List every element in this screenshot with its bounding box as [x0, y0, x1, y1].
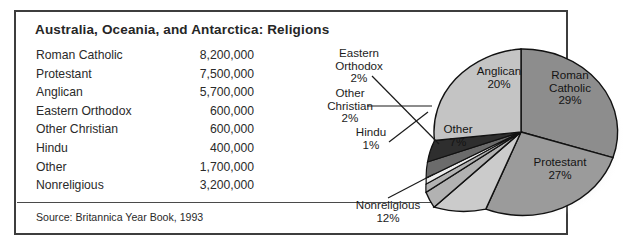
row-value: 7,500,000 [200, 67, 254, 81]
row-value: 1,700,000 [200, 160, 254, 174]
pie-label-protestant-name: Protestant [513, 156, 607, 169]
table-row: Anglican 5,700,000 [36, 85, 254, 104]
table-row: Roman Catholic 8,200,000 [36, 48, 254, 67]
religion-data-table: Roman Catholic 8,200,000 Protestant 7,50… [36, 48, 254, 197]
row-label: Roman Catholic [36, 48, 123, 62]
row-label: Eastern Orthodox [36, 104, 132, 118]
page-title: Australia, Oceania, and Antarctica: Reli… [35, 22, 329, 37]
row-value: 400,000 [210, 141, 254, 155]
table-row: Other Christian 600,000 [36, 122, 254, 141]
row-value: 8,200,000 [200, 48, 254, 62]
pie-label-roman-catholic-name1: Roman [528, 69, 612, 82]
row-label: Protestant [36, 67, 92, 81]
table-row: Eastern Orthodox 600,000 [36, 104, 254, 123]
pie-label-roman-catholic: Roman Catholic 29% [528, 69, 612, 107]
pie-label-eastern-orthodox-name1: Eastern [314, 47, 404, 60]
row-value: 3,200,000 [200, 178, 254, 192]
pie-label-other-christian-name1: Other [304, 87, 396, 100]
pie-label-protestant-percent: 27% [513, 169, 607, 182]
row-label: Anglican [36, 85, 83, 99]
row-label: Hindu [36, 141, 68, 155]
table-row: Protestant 7,500,000 [36, 67, 254, 86]
pie-label-other-christian: Other Christian 2% [304, 87, 396, 125]
pie-label-hindu: Hindu 1% [342, 126, 400, 151]
pie-label-nonreligious-name: Nonreligious [318, 199, 458, 212]
pie-label-nonreligious: Nonreligious 12% [318, 199, 458, 224]
row-value: 600,000 [210, 122, 254, 136]
pie-label-protestant: Protestant 27% [513, 156, 607, 181]
source-note: Source: Britannica Year Book, 1993 [36, 211, 203, 223]
pie-label-other: Other 7% [432, 123, 484, 148]
table-row: Hindu 400,000 [36, 141, 254, 160]
figure-frame: Australia, Oceania, and Antarctica: Reli… [14, 10, 568, 235]
pie-label-nonreligious-percent: 12% [318, 212, 458, 225]
table-row: Nonreligious 3,200,000 [36, 178, 254, 197]
chart-figure: Australia, Oceania, and Antarctica: Reli… [0, 0, 625, 249]
pie-label-other-percent: 7% [432, 136, 484, 149]
row-label: Other [36, 160, 66, 174]
pie-label-roman-catholic-percent: 29% [528, 94, 612, 107]
row-value: 600,000 [210, 104, 254, 118]
pie-label-other-name: Other [432, 123, 484, 136]
row-label: Other Christian [36, 122, 118, 136]
row-label: Nonreligious [36, 178, 104, 192]
pie-label-hindu-name: Hindu [342, 126, 400, 139]
pie-chart: Anglican 20% Roman Catholic 29% Protesta… [306, 36, 625, 241]
pie-label-eastern-orthodox: Eastern Orthodox 2% [314, 47, 404, 85]
pie-label-other-christian-percent: 2% [304, 112, 396, 125]
table-row: Other 1,700,000 [36, 160, 254, 179]
row-value: 5,700,000 [200, 85, 254, 99]
pie-label-eastern-orthodox-percent: 2% [314, 72, 404, 85]
pie-label-hindu-percent: 1% [342, 139, 400, 152]
